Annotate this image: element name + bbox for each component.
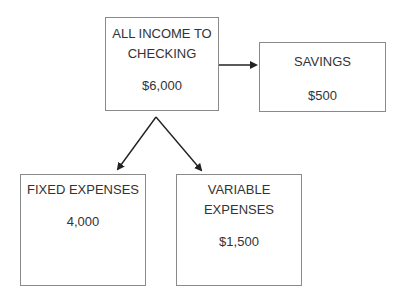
node-savings: SAVINGS $500 (259, 42, 386, 112)
node-fixed-expenses: FIXED EXPENSES 4,000 (20, 174, 146, 286)
node-value: $6,000 (106, 76, 218, 96)
node-title: FIXED EXPENSES (21, 180, 145, 200)
node-title: VARIABLE EXPENSES (177, 180, 301, 220)
arrow-main-to-variable (156, 117, 201, 170)
node-title: SAVINGS (260, 52, 385, 72)
node-variable-expenses: VARIABLE EXPENSES $1,500 (176, 174, 302, 286)
node-title: ALL INCOME TO CHECKING (106, 24, 218, 64)
node-value: $1,500 (177, 232, 301, 252)
node-value: 4,000 (21, 212, 145, 232)
node-all-income-to-checking: ALL INCOME TO CHECKING $6,000 (105, 17, 219, 111)
node-value: $500 (260, 86, 385, 106)
arrow-main-to-fixed (118, 117, 156, 169)
